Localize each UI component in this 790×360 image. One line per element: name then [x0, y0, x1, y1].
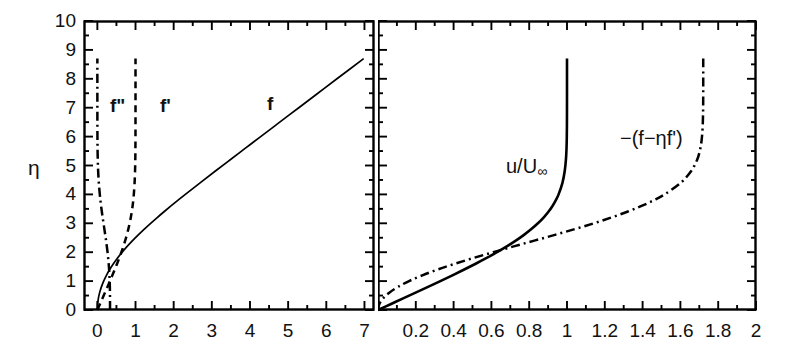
- curve-annotation: f': [160, 96, 171, 115]
- curve-uUinf-right: [378, 59, 567, 310]
- curve-annotation: u/U∞: [506, 156, 547, 178]
- y-tick-label: 2: [18, 242, 76, 261]
- y-tick-label: 3: [18, 213, 76, 232]
- curve-annotation: f: [267, 94, 273, 113]
- y-tick-label: 8: [18, 69, 76, 88]
- curve-f-left: [97, 59, 363, 310]
- y-tick-label: 0: [18, 300, 76, 319]
- y-tick-label: 10: [18, 11, 76, 30]
- right-panel-plot: [378, 0, 790, 360]
- blasius-boundary-layer-figure: η 01234567012345678910f"f'f0.20.40.60.81…: [0, 0, 790, 360]
- curve-fetaf-right: [378, 59, 703, 310]
- y-tick-label: 4: [18, 184, 76, 203]
- y-tick-label: 6: [18, 127, 76, 146]
- y-tick-label: 1: [18, 271, 76, 290]
- y-tick-label: 7: [18, 98, 76, 117]
- right-panel: [378, 0, 790, 360]
- x-tick-label: 2: [726, 321, 786, 340]
- y-tick-label: 9: [18, 40, 76, 59]
- y-tick-label: 5: [18, 156, 76, 175]
- curve-annotation: f": [110, 96, 125, 115]
- curve-annotation: −(f−ηf'): [620, 128, 683, 148]
